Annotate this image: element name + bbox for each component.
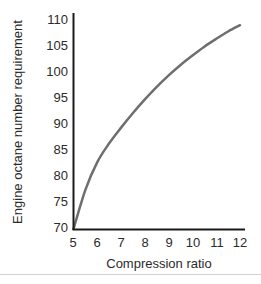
x-tick-label: 5 [69, 235, 76, 250]
x-tick-label: 9 [165, 235, 172, 250]
plot-area-background [73, 14, 245, 229]
y-tick-label: 80 [54, 168, 68, 183]
y-tick-label: 85 [54, 142, 68, 157]
y-tick-label: 70 [54, 220, 68, 235]
y-tick-label: 90 [54, 116, 68, 131]
line-chart-canvas: 110 105 100 95 90 85 80 75 70 5 6 7 8 9 … [0, 0, 261, 284]
x-axis-title: Compression ratio [106, 256, 212, 271]
x-axis-tick-labels: 5 6 7 8 9 10 11 12 [69, 235, 247, 250]
y-tick-label: 75 [54, 194, 68, 209]
chart-figure: 110 105 100 95 90 85 80 75 70 5 6 7 8 9 … [0, 0, 261, 284]
y-tick-label: 100 [46, 64, 68, 79]
x-tick-label: 12 [233, 235, 247, 250]
y-tick-label: 95 [54, 90, 68, 105]
x-tick-label: 8 [141, 235, 148, 250]
x-tick-label: 11 [210, 235, 224, 250]
y-axis-title: Engine octane number requirement [10, 20, 25, 224]
y-tick-label: 105 [46, 38, 68, 53]
x-tick-label: 7 [117, 235, 124, 250]
x-tick-label: 10 [186, 235, 200, 250]
y-tick-label: 110 [47, 12, 68, 27]
y-axis-tick-labels: 110 105 100 95 90 85 80 75 70 [46, 12, 68, 235]
x-tick-label: 6 [93, 235, 100, 250]
footer-divider [0, 274, 261, 275]
